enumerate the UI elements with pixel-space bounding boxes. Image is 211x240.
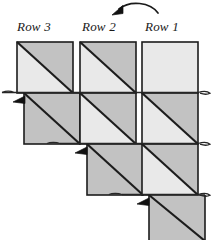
column-row1 (142, 42, 205, 240)
cell-row2-2 (80, 93, 136, 144)
row-label-row3: Row 3 (17, 19, 51, 35)
row-label-row1: Row 1 (145, 19, 179, 35)
row-turn-arrowhead (137, 198, 149, 206)
cell-row2-1 (80, 42, 136, 93)
diagram-canvas: .cellLight{fill:#e9e9e9;} .cellDark{fill… (0, 0, 211, 240)
traversal-direction-arrow (112, 3, 158, 15)
cell-row2-3 (87, 144, 143, 195)
cell-row1-2 (142, 93, 198, 144)
row-label-row2: Row 2 (82, 19, 116, 35)
column-row2 (80, 42, 143, 195)
cell-row1-4 (149, 195, 205, 240)
cell-row1-3 (142, 144, 198, 195)
arrow-head (112, 6, 123, 16)
row-turn-arrowhead (75, 147, 87, 155)
cell-row3-1 (17, 42, 73, 93)
cell-row3-2 (24, 93, 80, 144)
cell-row1-1 (142, 42, 198, 93)
triangle-strip-diagram: .cellLight{fill:#e9e9e9;} .cellDark{fill… (0, 0, 211, 240)
row-turn-arrowhead (13, 96, 25, 104)
